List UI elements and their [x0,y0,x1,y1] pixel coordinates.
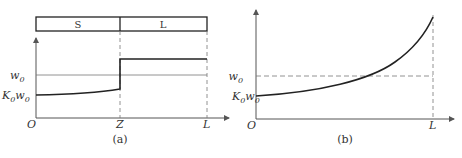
caption-a: (a) [112,133,127,146]
region-bar: S L [36,17,207,31]
origin-label: O [27,118,36,131]
l-label: L [428,119,436,132]
profile-curve [256,17,433,96]
k0w0-label: K0w0 [1,89,30,104]
region-s-label: S [75,19,82,30]
profile-curve [36,59,207,95]
origin-label: O [247,119,256,132]
w0-label: w0 [10,69,25,84]
diagram-canvas: S L w0 K0w0 O Z L (a) w0 K0w0 O [0,0,462,158]
caption-b: (b) [337,133,353,146]
w0-label: w0 [228,70,243,85]
region-l-label: L [160,19,167,30]
region-bar-frame [36,17,207,31]
panel-a: S L w0 K0w0 O Z L (a) [1,17,229,146]
z-label: Z [115,118,124,131]
panel-b: w0 K0w0 O L (b) [228,10,454,146]
l-label: L [202,118,210,131]
